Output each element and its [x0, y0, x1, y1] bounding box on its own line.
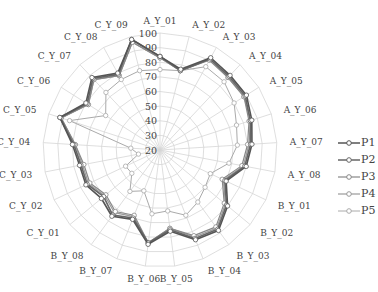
radial-tick-label: 30 [145, 130, 157, 141]
legend-label: P4 [361, 187, 375, 200]
axis-label: C_Y_05 [3, 105, 37, 116]
axis-label: A_Y_04 [248, 51, 282, 62]
radial-tick-label: 20 [145, 145, 157, 156]
legend-marker-icon [338, 173, 360, 181]
axis-label: A_Y_08 [287, 170, 321, 181]
radial-tick-label: 60 [145, 86, 157, 97]
axis-label: C_Y_07 [38, 51, 72, 62]
axis-label: A_Y_05 [269, 76, 303, 87]
legend-marker-icon [338, 207, 360, 215]
legend-marker-icon [338, 190, 360, 198]
axis-label: B_Y_05 [160, 274, 193, 285]
axis-label: B_Y_06 [127, 274, 160, 285]
axis-label: C_Y_03 [0, 170, 33, 181]
radial-tick-label: 80 [145, 57, 157, 68]
legend-item-p2: P2 [338, 151, 375, 168]
axis-label: A_Y_01 [143, 16, 177, 27]
axis-label: A_Y_02 [191, 20, 225, 31]
axis-label: C_Y_09 [94, 20, 128, 31]
legend-label: P1 [361, 136, 375, 149]
axis-label: B_Y_03 [236, 251, 269, 262]
axis-label: B_Y_02 [260, 228, 293, 239]
axis-label: A_Y_03 [222, 32, 256, 43]
legend-marker-icon [338, 139, 360, 147]
axis-label: A_Y_07 [289, 137, 323, 148]
radial-tick-labels: 2030405060708090100 [139, 28, 157, 156]
axis-label: C_Y_02 [9, 201, 42, 212]
axis-label: B_Y_04 [208, 266, 241, 277]
axis-label: C_Y_01 [27, 228, 60, 239]
radial-tick-label: 50 [145, 101, 157, 112]
legend-item-p1: P1 [338, 134, 375, 151]
legend-label: P2 [361, 153, 375, 166]
radar-chart: 2030405060708090100 A_Y_01A_Y_02A_Y_03A_… [0, 0, 378, 292]
axis-label: C_Y_06 [17, 76, 51, 87]
axis-label: C_Y_04 [0, 137, 31, 148]
axis-label: A_Y_06 [283, 105, 317, 116]
radial-tick-label: 100 [139, 28, 157, 39]
axis-label: B_Y_01 [278, 201, 311, 212]
legend-label: P5 [361, 204, 375, 217]
legend-marker-icon [338, 156, 360, 164]
axis-label: B_Y_08 [51, 251, 84, 262]
legend-item-p5: P5 [338, 202, 375, 219]
axis-label: C_Y_08 [64, 32, 98, 43]
legend-item-p3: P3 [338, 168, 375, 185]
radial-tick-label: 70 [145, 71, 157, 82]
legend-label: P3 [361, 170, 375, 183]
legend-item-p4: P4 [338, 185, 375, 202]
axis-label: B_Y_07 [79, 266, 112, 277]
legend: P1 P2 P3 P4 P5 [338, 134, 375, 219]
radial-tick-label: 40 [145, 115, 157, 126]
